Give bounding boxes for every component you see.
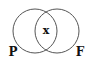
intersection-label: x [43, 24, 50, 37]
venn-diagram: x P F [0, 0, 88, 64]
set-p-label: P [8, 45, 17, 59]
set-f-label: F [76, 45, 85, 59]
